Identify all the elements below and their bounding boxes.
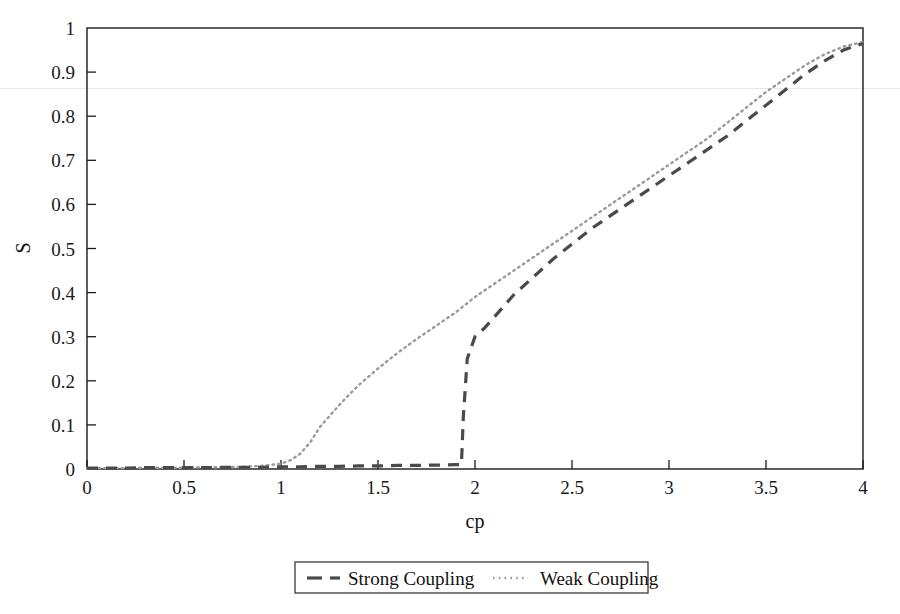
x-tick-label: 1 xyxy=(276,477,286,498)
plot-frame xyxy=(87,28,863,469)
y-axis-tick-labels: 00.10.20.30.40.50.60.70.80.91 xyxy=(51,18,75,480)
x-axis-tick-labels: 00.511.522.533.54 xyxy=(82,477,868,498)
y-axis-label: S xyxy=(12,242,34,253)
x-tick-label: 2.5 xyxy=(560,477,584,498)
x-tick-label: 3.5 xyxy=(754,477,778,498)
y-tick-label: 0.1 xyxy=(51,415,75,436)
y-tick-label: 1 xyxy=(66,18,76,39)
legend-label-weak-coupling: Weak Coupling xyxy=(540,568,659,589)
plot-svg: 00.511.522.533.54 00.10.20.30.40.50.60.7… xyxy=(0,0,900,614)
x-tick-label: 3 xyxy=(664,477,674,498)
legend-label-strong-coupling: Strong Coupling xyxy=(348,568,475,589)
x-axis-label: cp xyxy=(466,510,485,533)
y-tick-label: 0.9 xyxy=(51,62,75,83)
legend: Strong Coupling Weak Coupling xyxy=(295,562,659,593)
y-tick-label: 0 xyxy=(66,459,76,480)
weak-coupling-curve xyxy=(87,42,863,468)
y-tick-label: 0.3 xyxy=(51,327,75,348)
chart-figure: 00.511.522.533.54 00.10.20.30.40.50.60.7… xyxy=(0,0,900,614)
x-tick-label: 4 xyxy=(858,477,868,498)
x-tick-label: 1.5 xyxy=(366,477,390,498)
y-axis-ticks xyxy=(87,72,96,425)
y-tick-label: 0.7 xyxy=(51,150,75,171)
x-tick-label: 0 xyxy=(82,477,92,498)
x-tick-label: 2 xyxy=(470,477,480,498)
y-tick-label: 0.5 xyxy=(51,239,75,260)
y-tick-label: 0.2 xyxy=(51,371,75,392)
y-tick-label: 0.8 xyxy=(51,106,75,127)
y-tick-label: 0.4 xyxy=(51,283,75,304)
y-tick-label: 0.6 xyxy=(51,194,75,215)
x-tick-label: 0.5 xyxy=(172,477,196,498)
